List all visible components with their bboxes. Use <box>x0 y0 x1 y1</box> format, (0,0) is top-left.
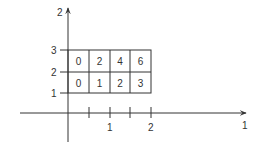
grid-cell-value: 6 <box>138 56 144 67</box>
y-tick-label: 1 <box>51 88 57 99</box>
vertical-axis-label: 2 <box>57 7 63 18</box>
y-tick-label: 3 <box>51 45 57 56</box>
horizontal-axis-label: 1 <box>242 120 248 131</box>
x-tick-label: 2 <box>148 122 154 133</box>
grid-cell-value: 3 <box>138 78 144 89</box>
grid-cell-value: 4 <box>117 56 123 67</box>
y-tick-label: 2 <box>51 67 57 78</box>
grid-cell-value: 0 <box>76 78 82 89</box>
grid-cell-value: 1 <box>97 78 103 89</box>
diagram-canvas: 2 1 1 2 3 2 1 02460123 <box>0 0 257 148</box>
grid-cell-value: 0 <box>76 56 82 67</box>
grid-cell-value: 2 <box>97 56 103 67</box>
grid-cell-value: 2 <box>117 78 123 89</box>
x-tick-label: 1 <box>107 122 113 133</box>
